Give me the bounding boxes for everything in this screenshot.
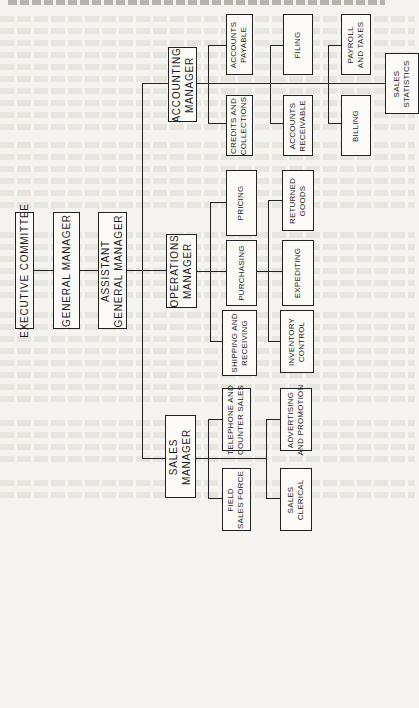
payroll-taxes-box: PAYROLL AND TAXES xyxy=(341,14,371,75)
connector-line xyxy=(268,200,282,201)
inventory-control-box: INVENTORY CONTROL xyxy=(280,310,314,373)
field-sales-force-box: FIELD SALES FORCE xyxy=(222,468,251,531)
telephone-counter-sales-label: TELEPHONE AND COUNTER SALES xyxy=(227,384,247,454)
background-text-line xyxy=(0,372,415,378)
background-text-line xyxy=(0,190,415,196)
connector-line xyxy=(142,83,168,84)
general-manager-box: GENERAL MANAGER xyxy=(53,212,80,329)
telephone-counter-sales-box: TELEPHONE AND COUNTER SALES xyxy=(222,388,251,451)
connector-line xyxy=(208,45,226,46)
operations-manager-label: OPERATIONS MANAGER xyxy=(169,235,195,308)
background-text-line xyxy=(0,360,415,366)
connector-line xyxy=(142,458,165,459)
background-text-line xyxy=(0,396,415,402)
connector-line xyxy=(266,498,280,499)
advertising-promotion-label: ADVERTISING AND PROMOTION xyxy=(286,384,306,455)
connector-line xyxy=(208,45,209,124)
sales-manager-box: SALES MANAGER xyxy=(165,415,196,498)
sales-clerical-box: SALES CLERICAL xyxy=(280,468,312,531)
background-text-line xyxy=(0,336,415,342)
connector-line xyxy=(210,202,226,203)
operations-manager-box: OPERATIONS MANAGER xyxy=(166,234,197,308)
connector-line xyxy=(196,458,266,459)
billing-label: BILLING xyxy=(351,109,361,141)
background-text-line xyxy=(0,166,415,172)
connector-line xyxy=(208,419,209,499)
accounts-payable-label: ACCOUNTS PAYABLE xyxy=(230,21,250,68)
executive-committee-label: EXECUTIVE COMMITTEE xyxy=(18,203,31,338)
connector-line xyxy=(208,419,222,420)
connector-line xyxy=(208,123,226,124)
payroll-taxes-label: PAYROLL AND TAXES xyxy=(346,21,366,67)
sales-statistics-box: SALES STATISTICS xyxy=(385,53,419,114)
connector-line xyxy=(270,45,283,46)
connector-line xyxy=(328,123,341,124)
background-text-line xyxy=(0,348,415,354)
billing-box: BILLING xyxy=(341,95,371,156)
shipping-receiving-box: SHIPPING AND RECEIVING xyxy=(222,310,257,376)
connector-line xyxy=(79,270,98,271)
expediting-label: EXPEDITING xyxy=(293,248,303,298)
assistant-general-manager-label: ASSISTANT GENERAL MANAGER xyxy=(100,214,126,327)
connector-line xyxy=(210,341,222,342)
connector-line xyxy=(208,498,222,499)
page-header-text xyxy=(8,0,385,5)
purchasing-label: PURCHASING xyxy=(237,245,247,300)
purchasing-box: PURCHASING xyxy=(226,240,257,306)
filing-box: FILING xyxy=(283,14,313,75)
background-text-line xyxy=(0,178,415,184)
connector-line xyxy=(196,83,385,84)
executive-committee-box: EXECUTIVE COMMITTEE xyxy=(15,212,34,329)
background-text-line xyxy=(0,384,415,390)
connector-line xyxy=(126,270,166,271)
accounts-payable-box: ACCOUNTS PAYABLE xyxy=(226,14,253,75)
connector-line xyxy=(210,202,211,342)
trunk-line xyxy=(142,83,143,459)
connector-line xyxy=(270,45,271,124)
pricing-box: PRICING xyxy=(226,170,257,236)
connector-line xyxy=(266,419,267,499)
accounts-receivable-label: ACCOUNTS RECEIVABLE xyxy=(288,100,308,152)
accounting-manager-box: ACCOUNTING MANAGER xyxy=(168,47,197,122)
credits-collections-label: CREDITS AND COLLECTIONS xyxy=(230,96,250,155)
filing-label: FILING xyxy=(293,31,303,58)
shipping-receiving-label: SHIPPING AND RECEIVING xyxy=(230,313,250,372)
connector-line xyxy=(33,270,53,271)
advertising-promotion-box: ADVERTISING AND PROMOTION xyxy=(280,388,312,451)
assistant-general-manager-box: ASSISTANT GENERAL MANAGER xyxy=(98,212,127,329)
connector-line xyxy=(328,45,329,124)
field-sales-force-label: FIELD SALES FORCE xyxy=(227,470,247,528)
returned-goods-label: RETURNED GOODS xyxy=(288,177,308,223)
connector-line xyxy=(268,200,269,342)
expediting-box: EXPEDITING xyxy=(282,240,314,306)
connector-line xyxy=(328,45,341,46)
sales-clerical-label: SALES CLERICAL xyxy=(286,479,306,520)
pricing-label: PRICING xyxy=(237,186,247,221)
connector-line xyxy=(268,341,280,342)
background-text-line xyxy=(0,202,415,208)
accounts-receivable-box: ACCOUNTS RECEIVABLE xyxy=(283,95,313,156)
accounting-manager-label: ACCOUNTING MANAGER xyxy=(170,47,196,122)
inventory-control-label: INVENTORY CONTROL xyxy=(287,317,307,365)
general-manager-label: GENERAL MANAGER xyxy=(60,214,73,327)
credits-collections-box: CREDITS AND COLLECTIONS xyxy=(226,95,253,156)
sales-statistics-label: SALES STATISTICS xyxy=(392,60,412,107)
connector-line xyxy=(270,123,283,124)
sales-manager-label: SALES MANAGER xyxy=(168,428,194,484)
connector-line xyxy=(266,419,280,420)
returned-goods-box: RETURNED GOODS xyxy=(282,170,314,231)
